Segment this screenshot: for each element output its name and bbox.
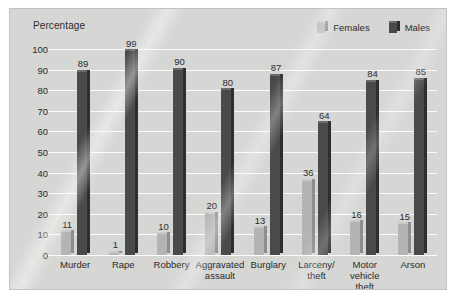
bar-group: 1090 bbox=[148, 49, 196, 255]
legend-label: Females bbox=[333, 22, 369, 33]
bar-body: 11 bbox=[61, 232, 74, 255]
y-tick-label: 30 bbox=[37, 188, 48, 199]
y-axis-title: Percentage bbox=[33, 20, 85, 31]
legend-item-males: Males bbox=[389, 21, 430, 33]
plot-area: 1189199109020801387366416841585 bbox=[51, 49, 437, 255]
bar-males: 89 bbox=[77, 72, 90, 255]
bar-value-label: 13 bbox=[255, 216, 266, 226]
bar-males: 84 bbox=[366, 82, 379, 255]
y-tick-label: 50 bbox=[37, 147, 48, 158]
x-axis-category-labels: MurderRapeRobberyAggravated assaultBurgl… bbox=[51, 259, 437, 290]
bar-value-label: 99 bbox=[126, 39, 137, 49]
bar-females: 16 bbox=[350, 222, 363, 255]
y-tick-label: 80 bbox=[37, 85, 48, 96]
x-label: Motor vehicle theft bbox=[341, 259, 389, 290]
bar-females: 10 bbox=[157, 234, 170, 255]
legend-item-females: Females bbox=[317, 21, 369, 33]
legend-label: Males bbox=[405, 22, 430, 33]
bar-group: 3664 bbox=[292, 49, 340, 255]
chart-legend: FemalesMales bbox=[317, 21, 430, 33]
x-label: Burglary bbox=[244, 259, 292, 290]
bar-group: 1387 bbox=[244, 49, 292, 255]
bar-group: 199 bbox=[99, 49, 147, 255]
bar-pair: 3664 bbox=[299, 49, 333, 255]
bar-body: 87 bbox=[270, 76, 283, 255]
y-tick-label: 60 bbox=[37, 126, 48, 137]
x-label: Rape bbox=[99, 259, 147, 290]
bar-males: 99 bbox=[125, 51, 138, 255]
bar-group: 2080 bbox=[196, 49, 244, 255]
bar-value-label: 64 bbox=[319, 111, 330, 121]
bar-body: 84 bbox=[366, 82, 379, 255]
bar-body: 99 bbox=[125, 51, 138, 255]
bar-groups: 1189199109020801387366416841585 bbox=[51, 49, 437, 255]
bar-females: 11 bbox=[61, 232, 74, 255]
bar-group: 1585 bbox=[389, 49, 437, 255]
bar-value-label: 11 bbox=[62, 220, 72, 230]
bar-females: 36 bbox=[302, 181, 315, 255]
bar-males: 64 bbox=[318, 123, 331, 255]
bar-body: 10 bbox=[157, 234, 170, 255]
bar-value-label: 89 bbox=[78, 59, 89, 69]
y-tick-label: 10 bbox=[37, 229, 48, 240]
bar-group: 1684 bbox=[341, 49, 389, 255]
chart-figure: Percentage FemalesMales 1009080706050403… bbox=[0, 0, 456, 298]
bar-body: 64 bbox=[318, 123, 331, 255]
bar-pair: 199 bbox=[106, 49, 140, 255]
bar-pair: 1090 bbox=[155, 49, 189, 255]
y-tick-label: 90 bbox=[37, 64, 48, 75]
gridline bbox=[47, 255, 437, 256]
bar-pair: 1387 bbox=[251, 49, 285, 255]
bar-value-label: 87 bbox=[271, 63, 282, 73]
bar-females: 13 bbox=[254, 228, 267, 255]
bar-value-label: 16 bbox=[351, 210, 362, 220]
legend-swatch-icon bbox=[317, 21, 328, 33]
y-tick-label: 100 bbox=[32, 44, 48, 55]
bar-body: 20 bbox=[205, 214, 218, 255]
bar-males: 90 bbox=[173, 70, 186, 255]
bar-females: 1 bbox=[109, 253, 122, 255]
x-label: Larceny/ theft bbox=[292, 259, 340, 290]
bar-body: 90 bbox=[173, 70, 186, 255]
bar-body: 15 bbox=[398, 224, 411, 255]
y-axis-tick-labels: 1009080706050403020100 bbox=[24, 49, 48, 255]
bar-value-label: 80 bbox=[223, 78, 234, 88]
bar-body: 36 bbox=[302, 181, 315, 255]
bar-males: 80 bbox=[221, 90, 234, 255]
bar-value-label: 1 bbox=[113, 240, 118, 250]
bar-value-label: 20 bbox=[207, 201, 218, 211]
y-tick-label: 40 bbox=[37, 167, 48, 178]
bar-body: 80 bbox=[221, 90, 234, 255]
bar-males: 87 bbox=[270, 76, 283, 255]
bar-value-label: 85 bbox=[416, 67, 427, 77]
bar-group: 1189 bbox=[51, 49, 99, 255]
x-label: Murder bbox=[51, 259, 99, 290]
bar-body: 1 bbox=[109, 253, 122, 255]
x-label: Arson bbox=[389, 259, 437, 290]
bar-body: 16 bbox=[350, 222, 363, 255]
bar-body: 85 bbox=[414, 80, 427, 255]
bar-body: 13 bbox=[254, 228, 267, 255]
chart-panel: Percentage FemalesMales 1009080706050403… bbox=[9, 8, 447, 290]
bar-pair: 1684 bbox=[348, 49, 382, 255]
x-label: Robbery bbox=[147, 259, 195, 290]
y-tick-label: 70 bbox=[37, 105, 48, 116]
legend-swatch-icon bbox=[389, 21, 400, 33]
y-tick-label: 20 bbox=[37, 208, 48, 219]
bar-value-label: 10 bbox=[158, 222, 169, 232]
bar-pair: 1585 bbox=[396, 49, 430, 255]
bar-value-label: 15 bbox=[400, 212, 411, 222]
y-tick-label: 0 bbox=[43, 250, 48, 261]
x-label: Aggravated assault bbox=[196, 259, 245, 290]
bar-females: 15 bbox=[398, 224, 411, 255]
bar-body: 89 bbox=[77, 72, 90, 255]
bar-females: 20 bbox=[205, 214, 218, 255]
bar-pair: 2080 bbox=[203, 49, 237, 255]
bar-males: 85 bbox=[414, 80, 427, 255]
bar-value-label: 90 bbox=[174, 57, 185, 67]
bar-value-label: 36 bbox=[303, 168, 314, 178]
bar-value-label: 84 bbox=[367, 69, 378, 79]
bar-pair: 1189 bbox=[58, 49, 92, 255]
